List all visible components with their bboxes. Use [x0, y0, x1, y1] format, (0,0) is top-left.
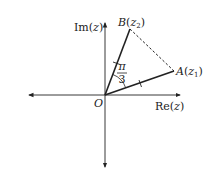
real-axis-label: Re(z) — [155, 100, 184, 113]
argand-diagram: π 3 Im(z) Re(z) O B(z2) A(z1) — [0, 0, 203, 175]
angle-numerator: π — [117, 60, 126, 73]
diagram-canvas: π 3 Im(z) Re(z) O B(z2) A(z1) — [0, 0, 203, 175]
angle-denominator: 3 — [119, 73, 126, 86]
point-b-label: B(z2) — [117, 16, 145, 30]
segment-ab-dashed — [130, 29, 174, 71]
origin-label: O — [94, 97, 103, 110]
point-a-label: A(z1) — [175, 65, 203, 79]
imag-axis-label: Im(z) — [74, 21, 103, 34]
segment-oa — [105, 71, 174, 95]
